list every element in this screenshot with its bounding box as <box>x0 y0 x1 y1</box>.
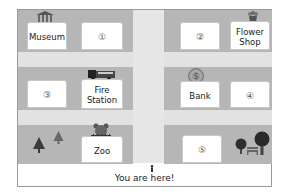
flower-shop-label-1: Flower <box>236 27 264 37</box>
lot-2-building[interactable]: ② <box>180 24 220 50</box>
lot-3-label: ③ <box>43 90 51 100</box>
bank-building[interactable]: Bank <box>180 83 220 108</box>
lot-5-label: ⑤ <box>198 145 206 155</box>
tree-icon <box>32 137 46 153</box>
svg-text:$: $ <box>193 72 198 81</box>
fire-station-building[interactable]: Fire Station <box>81 81 123 109</box>
park-icon <box>234 130 270 158</box>
bank-label: Bank <box>189 91 210 101</box>
lot-3-building[interactable]: ③ <box>27 82 67 108</box>
lot-4-label: ④ <box>246 91 254 101</box>
map-footer: You are here! <box>18 163 271 186</box>
lot-5-building[interactable]: ⑤ <box>182 137 222 163</box>
zoo-label: Zoo <box>94 146 110 156</box>
lot-1-building[interactable]: ① <box>81 24 123 50</box>
flower-shop-building[interactable]: Flower Shop <box>230 23 270 50</box>
tree-icon <box>53 131 64 144</box>
town-map: Museum ① ② Flower Shop ③ Fire Station $ … <box>17 9 272 187</box>
lot-2-label: ② <box>196 32 204 42</box>
museum-building[interactable]: Museum <box>27 24 67 50</box>
lot-1-label: ① <box>98 32 106 42</box>
museum-label: Museum <box>29 32 65 42</box>
zoo-building[interactable]: Zoo <box>81 138 123 163</box>
lot-4-building[interactable]: ④ <box>230 83 270 108</box>
fire-station-label-2: Station <box>87 95 117 105</box>
main-road <box>133 10 164 163</box>
flower-shop-label-2: Shop <box>239 37 260 47</box>
you-are-here-label: You are here! <box>18 173 271 183</box>
person-pin-icon <box>150 165 154 172</box>
fire-station-label-1: Fire <box>94 85 109 95</box>
